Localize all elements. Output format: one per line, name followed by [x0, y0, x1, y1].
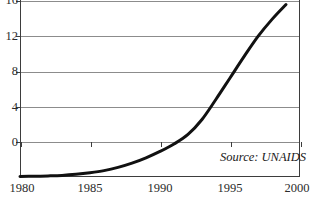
chart-screenshot: 20 16 12 8 4 0 1980 1985 1990 1995 2000 … [0, 0, 314, 204]
x-axis-label-2000: 2000 [285, 182, 310, 195]
source-annotation: Source: UNAIDS [220, 150, 306, 165]
gridline-0 [21, 142, 299, 143]
gridline-8 [21, 72, 299, 73]
gridline-12 [21, 36, 299, 37]
x-tick-1985 [91, 142, 92, 147]
y-axis-label-12: 12 [6, 30, 19, 43]
x-tick-1990 [161, 142, 162, 147]
x-axis-label-1980: 1980 [10, 182, 35, 195]
gridline-4 [21, 107, 299, 108]
x-axis-label-1995: 1995 [218, 182, 243, 195]
x-tick-2000 [301, 142, 302, 147]
y-axis-label-16: 16 [6, 0, 19, 7]
x-axis-label-1985: 1985 [78, 182, 103, 195]
gridline-16 [21, 1, 299, 2]
y-axis-label-0: 0 [12, 136, 18, 149]
x-tick-1980 [21, 142, 22, 147]
y-axis-label-4: 4 [12, 101, 18, 114]
x-tick-1995 [231, 142, 232, 147]
x-axis-label-1990: 1990 [148, 182, 173, 195]
y-axis-label-8: 8 [12, 65, 18, 78]
